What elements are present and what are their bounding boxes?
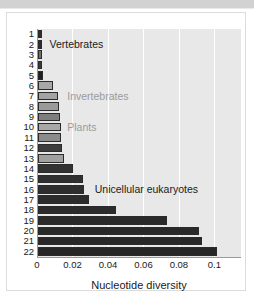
bar-15 (38, 175, 83, 184)
bar-22 (38, 247, 217, 256)
x-tick-0.1: 0.1 (208, 259, 221, 270)
x-tick-0.04: 0.04 (99, 259, 118, 270)
bar-20 (38, 227, 199, 236)
x-axis-title: Nucleotide diversity (37, 279, 241, 291)
bar-8 (38, 102, 59, 111)
x-tick-0.08: 0.08 (170, 259, 189, 270)
bar-11 (38, 133, 61, 142)
bar-17 (38, 195, 89, 204)
top-strip-edge (0, 8, 254, 9)
annotation-unicellular-eukaryotes: Unicellular eukaryotes (95, 183, 198, 195)
bar-rows: 12345678910111213141516171819202122Verte… (7, 29, 254, 257)
bar-5 (38, 71, 43, 80)
x-tick-labels: 00.020.040.060.080.1 (7, 259, 254, 273)
bar-16 (38, 185, 84, 194)
x-axis-line (37, 257, 241, 258)
top-gray-strip (0, 0, 254, 8)
x-tick-0.02: 0.02 (63, 259, 82, 270)
x-tick-0: 0 (34, 259, 39, 270)
bar-18 (38, 206, 116, 215)
bar-4 (38, 61, 42, 70)
figure-card: 12345678910111213141516171819202122Verte… (6, 12, 246, 291)
bar-7 (38, 92, 58, 101)
x-tick-0.06: 0.06 (134, 259, 153, 270)
bar-9 (38, 113, 60, 122)
bar-10 (38, 123, 61, 132)
annotation-invertebrates: Invertebrates (67, 90, 128, 102)
bar-14 (38, 164, 73, 173)
bar-21 (38, 237, 202, 246)
bar-2 (38, 40, 42, 49)
bar-19 (38, 216, 167, 225)
y-tick-text: 22 (16, 247, 34, 257)
bar-1 (38, 30, 42, 39)
annotation-plants: Plants (67, 121, 96, 133)
figure-root: 12345678910111213141516171819202122Verte… (0, 0, 254, 299)
annotation-vertebrates: Vertebrates (50, 38, 104, 50)
bar-12 (38, 144, 62, 153)
bar-3 (38, 50, 42, 59)
bar-13 (38, 154, 64, 163)
y-tick-label-22: 22 (15, 247, 34, 257)
bar-6 (38, 81, 53, 90)
